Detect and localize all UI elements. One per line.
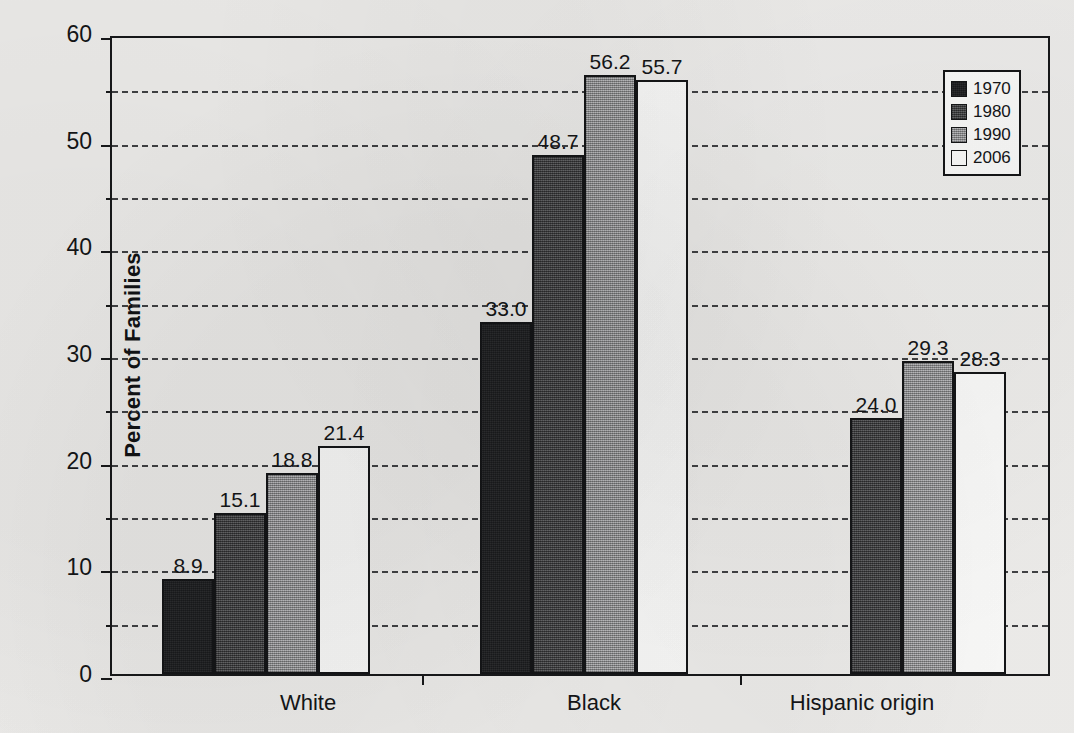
x-axis-category-label: White [158,690,458,716]
x-axis-tick [422,674,424,685]
bar-hispanic-1990 [902,361,954,674]
y-axis-tick [101,251,112,253]
bar-white-2006 [318,446,370,674]
gridline [112,91,1048,93]
legend-swatch-icon [951,150,967,166]
legend-label: 2006 [973,148,1011,168]
x-axis-category-label: Hispanic origin [712,690,1012,716]
y-axis-minor-tick [106,305,112,307]
bar-value-label: 28.3 [948,347,1012,371]
y-axis-minor-tick [106,198,112,200]
y-axis-tick-label: 40 [66,234,92,261]
bar-value-label: 24.0 [844,393,908,417]
y-axis-tick [101,145,112,147]
y-axis-tick-label: 50 [66,128,92,155]
bar-black-1980 [532,155,584,674]
bar-value-label: 8.9 [156,554,220,578]
bar-value-label: 55.7 [630,55,694,79]
y-axis-tick [101,465,112,467]
bar-value-label: 48.7 [526,130,590,154]
bar-black-1990 [584,75,636,674]
legend-label: 1970 [973,79,1011,99]
y-axis-tick-label: 20 [66,448,92,475]
y-axis-tick [101,358,112,360]
bar-black-1970 [480,322,532,674]
bar-white-1970 [162,579,214,674]
y-axis-tick-label: 60 [66,21,92,48]
y-axis-tick [101,571,112,573]
bar-white-1980 [214,513,266,674]
bar-value-label: 21.4 [312,421,376,445]
legend-item-1980[interactable]: 1980 [951,100,1014,123]
y-axis-tick [101,38,112,40]
y-axis-minor-tick [106,518,112,520]
legend-label: 1980 [973,102,1011,122]
legend-swatch-icon [951,104,967,120]
legend-label: 1990 [973,125,1011,145]
y-axis-minor-tick [106,91,112,93]
bar-chart: Percent of Families 8.915.118.821.433.04… [0,0,1074,733]
x-axis-category-label: Black [444,690,744,716]
y-axis-tick-label: 10 [66,554,92,581]
y-axis-minor-tick [106,411,112,413]
y-axis-tick-label: 0 [79,661,92,688]
bar-value-label: 33.0 [474,297,538,321]
legend-item-2006[interactable]: 2006 [951,146,1014,169]
legend-swatch-icon [951,81,967,97]
bar-hispanic-2006 [954,372,1006,674]
bar-value-label: 18.8 [260,448,324,472]
bar-white-1990 [266,473,318,674]
bar-value-label: 15.1 [208,488,272,512]
legend-swatch-icon [951,127,967,143]
y-axis-tick-label: 30 [66,341,92,368]
legend-item-1970[interactable]: 1970 [951,77,1014,100]
bar-black-2006 [636,80,688,674]
legend[interactable]: 1970198019902006 [943,70,1021,176]
bar-hispanic-1980 [850,418,902,674]
y-axis-minor-tick [106,625,112,627]
plot-area: Percent of Families 8.915.118.821.433.04… [110,36,1050,676]
x-axis-tick [740,674,742,685]
y-axis-tick [101,678,112,680]
legend-item-1990[interactable]: 1990 [951,123,1014,146]
y-axis-title: Percent of Families [120,252,146,458]
